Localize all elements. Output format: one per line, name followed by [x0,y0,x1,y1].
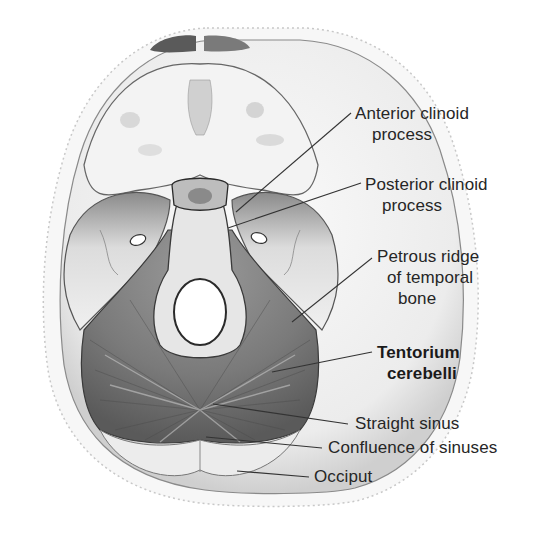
label-line: Occiput [314,467,372,486]
label-straight-sinus: Straight sinus [355,413,459,434]
label-line: Anterior clinoid [355,104,469,123]
label-line: Posterior clinoid [365,175,488,194]
label-line: bone [377,288,479,309]
label-anterior-clinoid-process: Anterior clinoid process [355,103,469,145]
label-posterior-clinoid-process: Posterior clinoid process [365,174,488,216]
label-line: process [365,195,488,216]
label-line: Tentorium [377,343,460,362]
label-line: cerebelli [377,363,460,384]
label-line: Confluence of sinuses [328,438,497,457]
label-line: process [355,124,469,145]
label-confluence-of-sinuses: Confluence of sinuses [328,437,497,458]
label-line: Petrous ridge [377,247,479,266]
label-petrous-ridge: Petrous ridge of temporal bone [377,246,479,309]
label-occiput: Occiput [314,466,372,487]
label-tentorium-cerebelli: Tentorium cerebelli [377,342,460,384]
label-line: of temporal [377,267,479,288]
label-line: Straight sinus [355,414,459,433]
